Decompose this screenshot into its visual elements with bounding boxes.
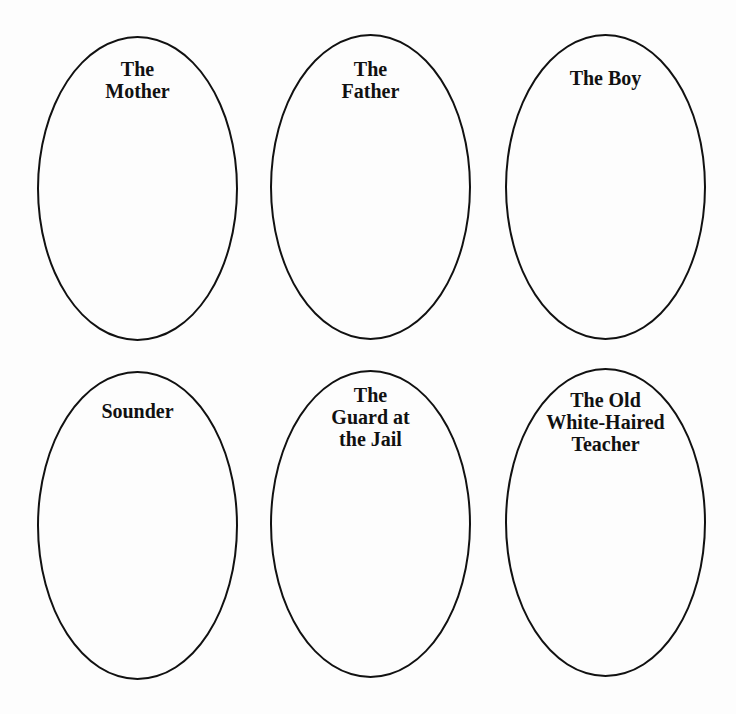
oval-label-mother: The Mother (37, 58, 238, 102)
oval-label-boy: The Boy (505, 67, 706, 89)
oval-label-teacher: The Old White-Haired Teacher (505, 389, 706, 455)
oval-label-father: The Father (270, 58, 471, 102)
oval-label-sounder: Sounder (37, 400, 238, 422)
oval-label-guard: The Guard at the Jail (270, 384, 471, 450)
